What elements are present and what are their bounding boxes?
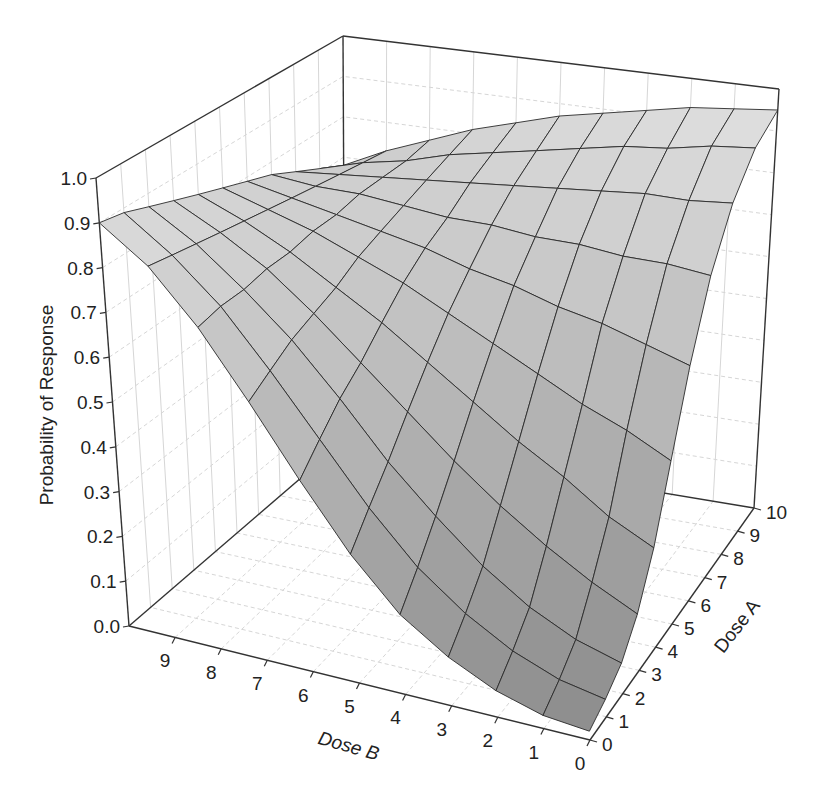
dose-a-tick [754,508,761,510]
dose-b-tick [218,649,221,655]
dose-a-axis-title: Dose A [710,595,764,656]
dose-b-tick [449,706,452,712]
z-tick [103,357,109,358]
dose-b-tick [541,729,544,735]
z-tick [100,312,106,313]
dose-a-tick [688,601,695,603]
surface-plot: 0.00.10.20.30.40.50.60.70.80.91.0 012345… [0,0,823,796]
z-tick-label: 0.8 [67,258,93,279]
dose-b-tick-label: 2 [483,730,494,751]
dose-b-tick-label: 5 [344,696,355,717]
z-tick-label: 0.5 [77,392,103,413]
z-tick-label: 0.4 [80,437,107,458]
dose-a-tick [705,578,712,580]
dose-a-tick-label: 8 [733,548,744,569]
z-tick [93,223,99,224]
dose-a-tick [721,554,728,556]
dose-b-tick-label: 8 [206,662,217,683]
dose-a-tick [639,670,646,672]
dose-b-axis-title: Dose B [316,727,382,764]
z-tick-label: 0.0 [94,616,120,637]
dose-a-tick-label: 2 [635,688,646,709]
z-tick [90,178,96,179]
z-tick [97,268,103,269]
dose-a-tick [738,531,745,533]
dose-b-tick-label: 4 [390,707,401,728]
dose-a-tick-label: 5 [684,618,695,639]
dose-b-tick [264,660,267,666]
z-tick [107,402,113,403]
z-tick [116,536,122,537]
dose-b-tick [357,683,360,689]
dose-b-tick-label: 7 [252,673,263,694]
z-tick-label: 0.1 [90,571,116,592]
z-tick-label: 0.7 [70,302,96,323]
z-tick [113,492,119,493]
dose-b-tick [495,717,498,723]
z-tick [123,626,129,627]
dose-b-tick-label: 9 [160,650,171,671]
dose-a-tick [606,717,613,719]
dose-a-tick-label: 1 [618,711,629,732]
dose-a-tick-label: 4 [668,641,679,662]
dose-a-tick-label: 9 [750,525,761,546]
dose-a-tick-label: 3 [651,664,662,685]
dose-b-tick [403,694,406,700]
dose-b-tick-label: 6 [298,685,309,706]
z-tick-label: 0.2 [87,526,113,547]
z-tick [110,447,116,448]
dose-b-tick [172,637,175,643]
z-axis-title: Probability of Response [36,305,57,506]
dose-a-tick [672,624,679,626]
z-tick-label: 0.6 [74,347,100,368]
dose-a-tick-label: 6 [700,595,711,616]
dose-b-tick-label: 0 [575,753,586,774]
dose-a-tick [656,647,663,649]
dose-a-tick [590,740,597,742]
dose-b-tick [310,672,313,678]
dose-b-tick [587,740,590,746]
z-tick [120,581,126,582]
dose-b-tick-label: 1 [529,742,540,763]
z-tick-label: 1.0 [61,168,87,189]
dose-a-tick-label: 7 [717,572,728,593]
dose-a-tick-label: 10 [766,502,787,523]
dose-b-tick-label: 3 [436,719,447,740]
dose-a-tick [623,694,630,696]
dose-a-tick-label: 0 [602,734,613,755]
z-tick-label: 0.3 [84,482,110,503]
z-tick-label: 0.9 [64,213,90,234]
